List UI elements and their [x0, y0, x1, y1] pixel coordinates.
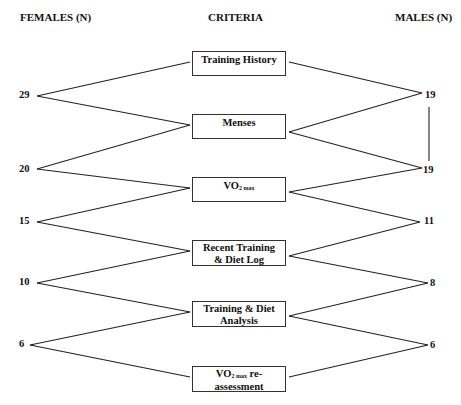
criteria-box-menses: Menses — [192, 114, 286, 139]
criteria-label: Training & Diet — [193, 303, 285, 315]
criteria-box-training-history: Training History — [192, 51, 286, 76]
criteria-label-suffix: re- — [247, 368, 262, 379]
female-count: 6 — [19, 338, 24, 349]
criteria-label-line2: & Diet Log — [193, 254, 285, 266]
male-count: 11 — [424, 215, 434, 226]
criteria-label: VO — [216, 368, 232, 379]
criteria-subscript: 2 max — [239, 185, 255, 191]
female-count: 15 — [19, 215, 30, 226]
male-count: 19 — [425, 89, 436, 100]
female-count: 10 — [19, 276, 30, 287]
criteria-box-vo2max-reassessment: VO2 max re- assessment — [192, 366, 286, 392]
male-count: 8 — [430, 277, 435, 288]
criteria-box-training-diet-analysis: Training & Diet Analysis — [192, 301, 286, 327]
criteria-box-recent-training: Recent Training & Diet Log — [192, 240, 286, 266]
criteria-label-line2: assessment — [193, 381, 285, 393]
criteria-box-vo2max: VO2 max — [192, 177, 286, 202]
criteria-label-line2: Analysis — [193, 315, 285, 327]
male-count: 6 — [430, 339, 435, 350]
female-count: 20 — [19, 163, 30, 174]
criteria-label: Training History — [201, 54, 276, 65]
criteria-label: Menses — [222, 117, 255, 128]
criteria-label: Recent Training — [193, 242, 285, 254]
criteria-subscript: 2 max — [231, 373, 247, 379]
male-count: 19 — [423, 164, 434, 175]
female-count: 29 — [19, 89, 30, 100]
criteria-label: VO — [223, 180, 239, 191]
